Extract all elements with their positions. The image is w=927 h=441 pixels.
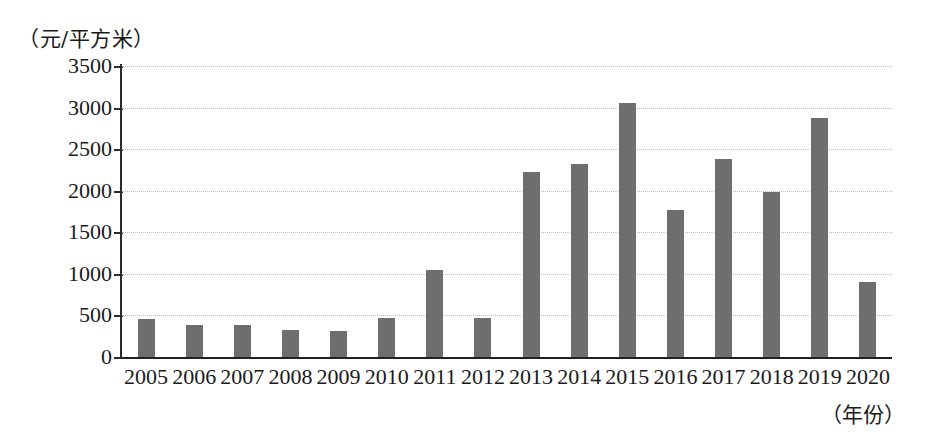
bar bbox=[619, 103, 636, 357]
bar bbox=[138, 319, 155, 357]
y-axis-tick-label: 2500 bbox=[4, 138, 112, 160]
y-axis-tick-label: 1500 bbox=[4, 221, 112, 243]
plot-area bbox=[122, 66, 892, 357]
bar bbox=[378, 318, 395, 357]
y-axis-tick-label: 3000 bbox=[4, 97, 112, 119]
y-axis-tick-label: 1000 bbox=[4, 263, 112, 285]
bar bbox=[571, 164, 588, 357]
y-axis-tick-labels: 0500100015002000250030003500 bbox=[0, 0, 112, 441]
bar-chart: （元/平方米） 0500100015002000250030003500 200… bbox=[0, 0, 927, 441]
y-axis-tick-label: 500 bbox=[4, 304, 112, 326]
bar bbox=[474, 318, 491, 357]
bar bbox=[282, 330, 299, 357]
y-axis-tick-label: 2000 bbox=[4, 180, 112, 202]
bar bbox=[330, 331, 347, 357]
gridline bbox=[122, 66, 892, 67]
gridline bbox=[122, 149, 892, 150]
x-axis-unit-label: （年份） bbox=[821, 398, 905, 428]
gridline bbox=[122, 108, 892, 109]
bar bbox=[426, 270, 443, 357]
y-axis-tick-label: 0 bbox=[4, 346, 112, 368]
axis-baseline bbox=[122, 357, 892, 359]
bar bbox=[523, 172, 540, 357]
bar bbox=[859, 282, 876, 357]
bar bbox=[234, 325, 251, 357]
x-axis-tick-labels: 2005200620072008200920102011201220132014… bbox=[122, 362, 892, 394]
bar bbox=[186, 325, 203, 357]
y-axis-tick-label: 3500 bbox=[4, 55, 112, 77]
bar bbox=[715, 159, 732, 357]
bar bbox=[667, 210, 684, 357]
x-axis-tick-label: 2020 bbox=[839, 362, 897, 392]
bar bbox=[811, 118, 828, 357]
bar bbox=[763, 192, 780, 357]
